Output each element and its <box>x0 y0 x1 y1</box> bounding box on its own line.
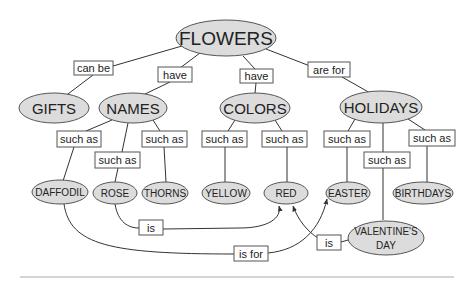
concept-colors: COLORS <box>220 93 290 123</box>
concept-label: BIRTHDAYS <box>395 188 452 199</box>
concept-label: COLORS <box>223 100 286 117</box>
link-label: is for <box>239 248 263 260</box>
link-such-as-daffodil: such as <box>57 131 101 147</box>
link-rose-is-red: is <box>139 220 163 235</box>
concept-daffodil: DAFFODIL <box>32 180 88 204</box>
concept-gifts: GIFTS <box>19 93 89 123</box>
link-daffodil-is-for-easter: is for <box>234 246 268 261</box>
concept-valentines-day: VALENTINE'S DAY <box>348 221 424 255</box>
concept-holidays: HOLIDAYS <box>340 91 422 123</box>
concept-easter: EASTER <box>326 182 370 204</box>
concept-label: YELLOW <box>205 188 247 199</box>
link-label: such as <box>413 132 451 144</box>
link-label: such as <box>99 154 137 166</box>
concept-label: FLOWERS <box>179 28 273 49</box>
concept-label: ROSE <box>101 188 130 199</box>
link-such-as-red: such as <box>262 131 307 147</box>
link-label: such as <box>328 133 366 145</box>
link-label: can be <box>77 62 110 74</box>
link-label: have <box>245 70 269 82</box>
link-are-for: are for <box>308 62 350 77</box>
link-label: such as <box>60 133 98 145</box>
link-have-colors: have <box>240 69 273 83</box>
link-such-as-birthdays: such as <box>409 130 455 146</box>
link-label: such as <box>266 133 304 145</box>
concept-label: DAFFODIL <box>35 187 85 198</box>
concept-label: RED <box>275 188 296 199</box>
link-such-as-thorns: such as <box>142 131 187 147</box>
link-label: such as <box>368 154 406 166</box>
concept-rose: ROSE <box>93 182 137 204</box>
concept-label: EASTER <box>328 188 368 199</box>
concept-names: NAMES <box>99 93 167 123</box>
concept-map: FLOWERS GIFTS NAMES COLORS HOLIDAYS DAFF… <box>0 0 471 285</box>
link-label: are for <box>313 64 345 76</box>
link-such-as-rose: such as <box>95 152 140 168</box>
link-label: have <box>163 69 187 81</box>
link-valentines-is-red: is <box>317 235 341 250</box>
concept-birthdays: BIRTHDAYS <box>393 182 453 204</box>
link-label: is <box>325 237 333 249</box>
link-have-names: have <box>158 67 192 82</box>
concept-yellow: YELLOW <box>202 182 250 204</box>
concept-flowers: FLOWERS <box>176 20 276 56</box>
concept-red: RED <box>264 182 308 204</box>
concept-label: GIFTS <box>32 100 76 117</box>
link-label: such as <box>146 133 184 145</box>
concept-label: THORNS <box>144 188 187 199</box>
concept-label: NAMES <box>106 100 159 117</box>
link-can-be: can be <box>74 61 113 75</box>
link-label: such as <box>206 133 244 145</box>
concept-thorns: THORNS <box>142 182 188 204</box>
link-such-as-valentines: such as <box>364 152 410 168</box>
concept-label: HOLIDAYS <box>344 99 419 116</box>
link-such-as-easter: such as <box>324 131 370 147</box>
link-such-as-yellow: such as <box>202 131 247 147</box>
link-label: is <box>147 222 155 234</box>
concept-label-line2: DAY <box>376 240 396 251</box>
concept-label-line1: VALENTINE'S <box>354 226 418 237</box>
